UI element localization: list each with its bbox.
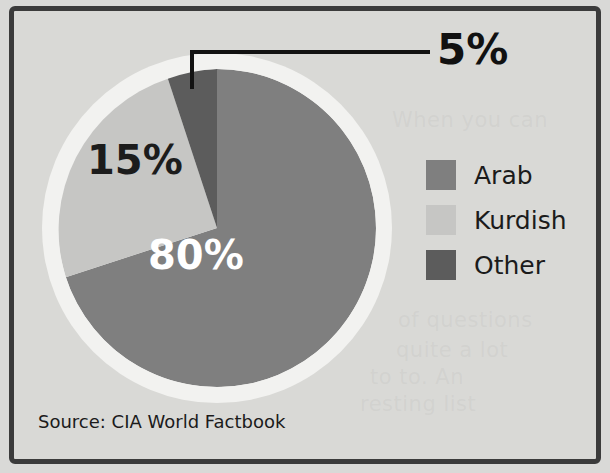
callout-leader-line-vertical [190, 50, 194, 89]
legend-item-arab[interactable]: Arab [426, 154, 591, 196]
chart-legend: Arab Kurdish Other [426, 154, 591, 289]
pie-chart-figure: When you can of questions quite a lot to… [0, 0, 610, 473]
pie-svg [58, 69, 376, 387]
legend-item-kurdish[interactable]: Kurdish [426, 199, 591, 241]
slice-value-label-kurdish: 15% [87, 137, 183, 183]
legend-swatch-other-icon [426, 250, 456, 280]
legend-label-kurdish: Kurdish [474, 208, 567, 233]
source-note: Source: CIA World Factbook [38, 411, 285, 432]
legend-label-other: Other [474, 253, 545, 278]
legend-item-other[interactable]: Other [426, 244, 591, 286]
pie-chart [42, 53, 392, 403]
pie-slices [58, 69, 376, 387]
slice-value-label-arab: 80% [148, 232, 244, 278]
legend-swatch-kurdish-icon [426, 205, 456, 235]
legend-label-arab: Arab [474, 163, 533, 188]
legend-swatch-arab-icon [426, 160, 456, 190]
callout-leader-line-horizontal [190, 50, 430, 54]
slice-value-label-other: 5% [437, 25, 508, 74]
